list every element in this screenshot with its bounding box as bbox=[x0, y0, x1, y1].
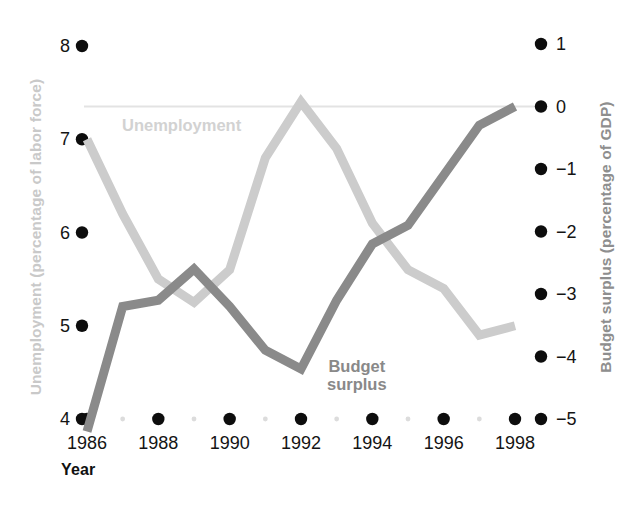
y-axis-right-tick-dot bbox=[535, 413, 547, 425]
x-axis-tick-dot bbox=[152, 413, 164, 425]
x-axis-minor-tick-dot bbox=[192, 417, 197, 422]
y-axis-left-tick-dot bbox=[76, 226, 88, 238]
y-axis-right-tick-label: 1 bbox=[556, 35, 590, 53]
x-axis-minor-tick-dot bbox=[477, 417, 482, 422]
x-axis-tick-label: 1986 bbox=[57, 434, 117, 452]
y-axis-right-tick-dot bbox=[535, 100, 547, 112]
x-axis-tick-label: 1988 bbox=[128, 434, 188, 452]
y-axis-right-tick-label: 0 bbox=[556, 98, 590, 116]
x-axis-tick-dot bbox=[509, 413, 521, 425]
x-axis-tick-label: 1990 bbox=[200, 434, 260, 452]
chart-canvas: Unemployment (percentage of labor force)… bbox=[0, 0, 643, 509]
y-axis-left-tick-label: 4 bbox=[48, 410, 70, 428]
y-axis-left-tick-label: 8 bbox=[48, 37, 70, 55]
y-axis-right-tick-label: −1 bbox=[556, 160, 590, 178]
y-axis-right-tick-dot bbox=[535, 225, 547, 237]
series-lines bbox=[87, 102, 515, 432]
y-axis-left-tick-dot bbox=[76, 40, 88, 52]
x-axis-tick-label: 1994 bbox=[342, 434, 402, 452]
y-axis-right-tick-dot bbox=[535, 163, 547, 175]
x-axis-tick-dot bbox=[366, 413, 378, 425]
axis-tick-dots bbox=[76, 38, 547, 425]
x-axis-minor-tick-dot bbox=[120, 417, 125, 422]
y-axis-right-tick-dot bbox=[535, 38, 547, 50]
x-axis-minor-tick-dot bbox=[406, 417, 411, 422]
x-axis-tick-dot bbox=[223, 413, 235, 425]
x-axis-tick-dot bbox=[437, 413, 449, 425]
y-axis-right-tick-label: −4 bbox=[556, 348, 590, 366]
y-axis-right-tick-dot bbox=[535, 288, 547, 300]
x-axis-minor-tick-dot bbox=[334, 417, 339, 422]
x-axis-minor-tick-dot bbox=[263, 417, 268, 422]
y-axis-right-tick-label: −3 bbox=[556, 285, 590, 303]
x-axis-tick-dot bbox=[295, 413, 307, 425]
y-axis-left-tick-label: 5 bbox=[48, 317, 70, 335]
y-axis-right-tick-label: −5 bbox=[556, 410, 590, 428]
x-axis-tick-label: 1996 bbox=[414, 434, 474, 452]
y-axis-left-tick-label: 7 bbox=[48, 130, 70, 148]
y-axis-right-tick-label: −2 bbox=[556, 223, 590, 241]
y-axis-right-tick-dot bbox=[535, 350, 547, 362]
x-axis-tick-label: 1992 bbox=[271, 434, 331, 452]
x-axis-tick-label: 1998 bbox=[485, 434, 545, 452]
y-axis-left-tick-label: 6 bbox=[48, 224, 70, 242]
y-axis-left-tick-dot bbox=[76, 320, 88, 332]
